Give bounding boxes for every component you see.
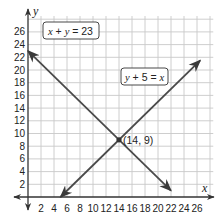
line-label-y-plus-5-equals-x: y + 5 = x xyxy=(121,68,168,85)
intersection-label: (14, 9) xyxy=(123,134,153,146)
y-tick-label: 6 xyxy=(19,153,25,164)
x-tick-label: 4 xyxy=(51,203,57,214)
x-tick-label: 8 xyxy=(77,203,83,214)
x-tick-label: 10 xyxy=(87,203,99,214)
coordinate-plane: 2468101214161820222426246810121416182022… xyxy=(0,0,217,222)
x-axis-label: x xyxy=(201,181,208,195)
y-axis-label: y xyxy=(32,4,39,18)
x-tick-label: 24 xyxy=(178,203,190,214)
y-tick-label: 20 xyxy=(14,65,26,76)
y-tick-label: 4 xyxy=(19,166,25,177)
y-tick-label: 16 xyxy=(14,90,26,101)
intersection-point: (14, 9) xyxy=(116,134,153,146)
y-tick-label: 24 xyxy=(14,39,26,50)
x-tick-label: 20 xyxy=(152,203,164,214)
tick-labels: 2468101214161820222426246810121416182022… xyxy=(14,26,203,214)
y-tick-label: 18 xyxy=(14,77,26,88)
x-tick-label: 6 xyxy=(64,203,70,214)
x-tick-label: 18 xyxy=(139,203,151,214)
line-label-x-plus-y-equals-23: x + y = 23 xyxy=(43,22,99,39)
y-tick-label: 12 xyxy=(14,115,26,126)
x-tick-label: 14 xyxy=(113,203,125,214)
grid xyxy=(28,16,213,197)
y-tick-label: 14 xyxy=(14,103,26,114)
svg-text:y + 5 = x: y + 5 = x xyxy=(124,71,164,83)
y-tick-label: 8 xyxy=(19,141,25,152)
x-tick-label: 12 xyxy=(100,203,112,214)
x-tick-label: 26 xyxy=(191,203,203,214)
x-tick-label: 16 xyxy=(126,203,138,214)
svg-text:x + y = 23: x + y = 23 xyxy=(47,25,93,37)
y-tick-label: 2 xyxy=(19,179,25,190)
y-tick-label: 26 xyxy=(14,26,26,37)
x-tick-label: 22 xyxy=(165,203,177,214)
y-tick-label: 10 xyxy=(14,128,26,139)
x-tick-label: 2 xyxy=(38,203,44,214)
y-tick-label: 22 xyxy=(14,52,26,63)
